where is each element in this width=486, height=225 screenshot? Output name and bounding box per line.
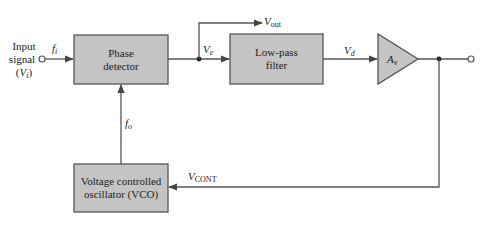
fi-label: fi: [52, 42, 57, 56]
ve-label: Ve: [203, 43, 213, 57]
phase-detector-label: Phase detector: [74, 35, 168, 84]
vout-label: Vout: [264, 15, 281, 29]
vcont-label: VCONT: [188, 170, 217, 184]
input-signal-label: Input signal (Vi): [6, 40, 42, 80]
input-label-line1: Input: [6, 40, 42, 53]
amplifier-gain-label: Av: [387, 53, 397, 67]
low-pass-filter-label: Low-pass filter: [230, 34, 323, 84]
input-label-line3: (Vi): [6, 66, 42, 80]
input-label-line2: signal: [2, 53, 42, 66]
vd-label: Vd: [344, 44, 355, 58]
amplifier-triangle: [378, 34, 418, 84]
output-terminal: [468, 56, 474, 62]
fo-label: fo: [125, 117, 132, 131]
vco-label: Voltage controlled oscillator (VCO): [74, 164, 168, 212]
